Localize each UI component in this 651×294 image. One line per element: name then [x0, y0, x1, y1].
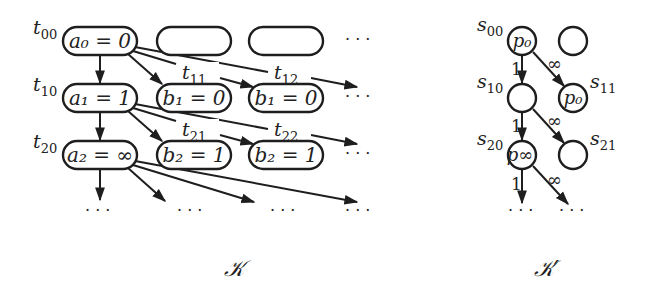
ellipsis-row0: · · · — [345, 30, 370, 49]
ellipsis-row1: · · · — [345, 87, 370, 106]
edge-t12-ellipsis — [311, 78, 357, 87]
side-label-s21: s21 — [590, 127, 616, 153]
k-node-empty02 — [249, 27, 323, 55]
svg-text:b₂ = 1: b₂ = 1 — [162, 143, 225, 167]
weight-s20-down: 1 — [511, 174, 522, 194]
ellipsis-kp-col1: · · · — [508, 201, 533, 220]
row-label-s00: s00 — [477, 13, 503, 39]
k-node-a1: a₁ = 1 — [63, 84, 137, 112]
svg-text:a₀ = 0: a₀ = 0 — [69, 29, 131, 53]
edge-a2-col3 — [133, 165, 254, 202]
ellipsis-bottom-col3: · · · — [270, 201, 295, 220]
kp-node-s11: p₀ — [559, 84, 587, 112]
row-label-t20: t20 — [33, 130, 57, 156]
row-label-t00: t00 — [33, 16, 57, 42]
svg-text:a₂ = ∞: a₂ = ∞ — [67, 143, 133, 167]
svg-text:b₂ = 1: b₂ = 1 — [254, 143, 317, 167]
k-node-b1-col3: b₁ = 0 — [249, 84, 323, 112]
svg-text:b₁ = 0: b₁ = 0 — [162, 86, 225, 110]
weight-s20-diag: ∞ — [547, 169, 562, 190]
k-node-a0: a₀ = 0 — [63, 27, 137, 55]
svg-text:p₀: p₀ — [513, 30, 532, 51]
k-node-a2: a₂ = ∞ — [63, 141, 137, 169]
row-label-s20: s20 — [477, 127, 503, 153]
row-label-t10: t10 — [33, 73, 57, 99]
weight-s00-s10: 1 — [511, 59, 522, 79]
kp-node-s00: p₀ — [508, 27, 536, 55]
svg-text:p∞: p∞ — [507, 144, 534, 165]
caption-k: 𝒦 — [224, 256, 251, 281]
diagram-canvas: a₀ = 0 a₁ = 1 b₁ = 0 b₁ = 0 a₂ = ∞ b₂ = — [0, 0, 651, 294]
kp-node-s10 — [508, 84, 536, 112]
ellipsis-bottom-col1: · · · — [85, 201, 110, 220]
diagram-k-prime: p₀ p₀ p∞ s00 s10 s20 s11 s21 1 1 1 ∞ ∞ ∞ — [477, 13, 616, 281]
svg-text:a₁ = 1: a₁ = 1 — [69, 86, 131, 110]
k-node-empty01 — [157, 27, 231, 55]
k-node-b2-col3: b₂ = 1 — [249, 141, 323, 169]
weight-s10-s20: 1 — [511, 116, 522, 136]
weight-s00-s11: ∞ — [547, 53, 562, 74]
svg-text:p₀: p₀ — [564, 87, 583, 108]
weight-s10-s21: ∞ — [547, 110, 562, 131]
ellipsis-row2: · · · — [345, 144, 370, 163]
svg-text:b₁ = 0: b₁ = 0 — [254, 86, 317, 110]
k-node-b2-col2: b₂ = 1 — [157, 141, 231, 169]
edge-t22-ellipsis — [311, 135, 357, 144]
side-label-s11: s11 — [590, 70, 616, 96]
ellipsis-kp-col2: · · · — [559, 201, 584, 220]
k-node-b1-col2: b₁ = 0 — [157, 84, 231, 112]
ellipsis-bottom-col2: · · · — [177, 201, 202, 220]
diagram-k: a₀ = 0 a₁ = 1 b₁ = 0 b₁ = 0 a₂ = ∞ b₂ = — [33, 16, 370, 281]
k-edges — [100, 47, 357, 202]
caption-k-prime: 𝒦′ — [534, 256, 561, 281]
kp-node-s01 — [559, 27, 587, 55]
ellipsis-bottom-col4: · · · — [345, 201, 370, 220]
kp-node-s20: p∞ — [507, 141, 536, 169]
row-label-s10: s10 — [477, 70, 503, 96]
kp-node-s21 — [559, 141, 587, 169]
